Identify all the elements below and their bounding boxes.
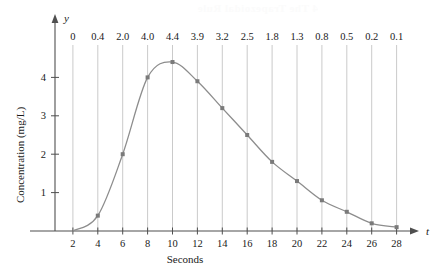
x-tick-label-10: 10: [167, 238, 178, 249]
data-point-marker-t-4: [96, 214, 100, 218]
data-point-marker-t-24: [345, 210, 349, 214]
data-value-label-t-14: 3.2: [216, 31, 229, 42]
data-point-marker-t-16: [245, 133, 249, 137]
x-axis-arrowhead: [410, 228, 419, 235]
data-value-labels-group: 00.42.04.04.43.93.22.51.81.30.80.50.20.1: [70, 31, 403, 42]
x-tick-label-8: 8: [145, 238, 150, 249]
y-axis-arrowhead: [52, 14, 59, 23]
x-tick-label-14: 14: [217, 238, 228, 249]
axes-group: [30, 14, 419, 234]
data-point-marker-t-8: [146, 75, 150, 79]
data-point-marker-t-28: [395, 225, 399, 229]
data-value-label-t-2: 0: [70, 31, 75, 42]
data-point-marker-t-26: [370, 221, 374, 225]
x-tick-label-24: 24: [342, 238, 353, 249]
data-curve-group: [73, 62, 397, 231]
data-point-marker-t-12: [195, 79, 199, 83]
data-value-label-t-26: 0.2: [365, 31, 378, 42]
data-point-marker-t-10: [171, 60, 175, 64]
x-tick-label-22: 22: [317, 238, 328, 249]
data-point-marker-t-14: [220, 106, 224, 110]
data-value-label-t-22: 0.8: [315, 31, 328, 42]
data-value-label-t-16: 2.5: [241, 31, 254, 42]
data-value-label-t-10: 4.4: [166, 31, 180, 42]
data-value-label-t-4: 0.4: [91, 31, 105, 42]
chart-figure: 4 The Trapezoidal Rule 1234 246810121416…: [0, 0, 440, 271]
x-tick-label-16: 16: [242, 238, 253, 249]
data-point-marker-t-22: [320, 198, 324, 202]
concentration-vs-time-line-chart: 1234 246810121416182022242628 00.42.04.0…: [0, 0, 440, 271]
x-axis-variable-symbol: t: [426, 225, 430, 237]
data-value-label-t-24: 0.5: [340, 31, 353, 42]
x-tick-label-28: 28: [391, 238, 402, 249]
x-tick-label-20: 20: [292, 238, 303, 249]
x-tick-label-4: 4: [95, 238, 101, 249]
y-tick-label-4: 4: [41, 72, 47, 83]
concentration-curve: [73, 62, 397, 231]
data-value-label-t-12: 3.9: [191, 31, 204, 42]
y-tick-label-3: 3: [41, 110, 46, 121]
gridlines-group: [73, 45, 397, 231]
data-value-label-t-20: 1.3: [290, 31, 303, 42]
y-tick-label-1: 1: [41, 187, 46, 198]
x-tick-label-2: 2: [70, 238, 75, 249]
y-axis-variable-symbol: y: [63, 12, 69, 24]
data-point-marker-t-6: [121, 152, 125, 156]
x-tick-label-6: 6: [120, 238, 125, 249]
x-tick-label-18: 18: [267, 238, 278, 249]
y-axis-title: Concentration (mg/L): [14, 107, 27, 204]
data-value-label-t-18: 1.8: [266, 31, 279, 42]
y-axis-ticks-group: 1234: [41, 72, 59, 198]
data-point-marker-t-20: [295, 179, 299, 183]
x-axis-title: Seconds: [167, 253, 204, 265]
x-tick-label-12: 12: [192, 238, 203, 249]
data-value-label-t-8: 4.0: [141, 31, 154, 42]
x-tick-label-26: 26: [366, 238, 377, 249]
data-value-label-t-6: 2.0: [116, 31, 129, 42]
y-tick-label-2: 2: [41, 149, 46, 160]
data-point-marker-t-18: [270, 160, 274, 164]
data-value-label-t-28: 0.1: [390, 31, 403, 42]
